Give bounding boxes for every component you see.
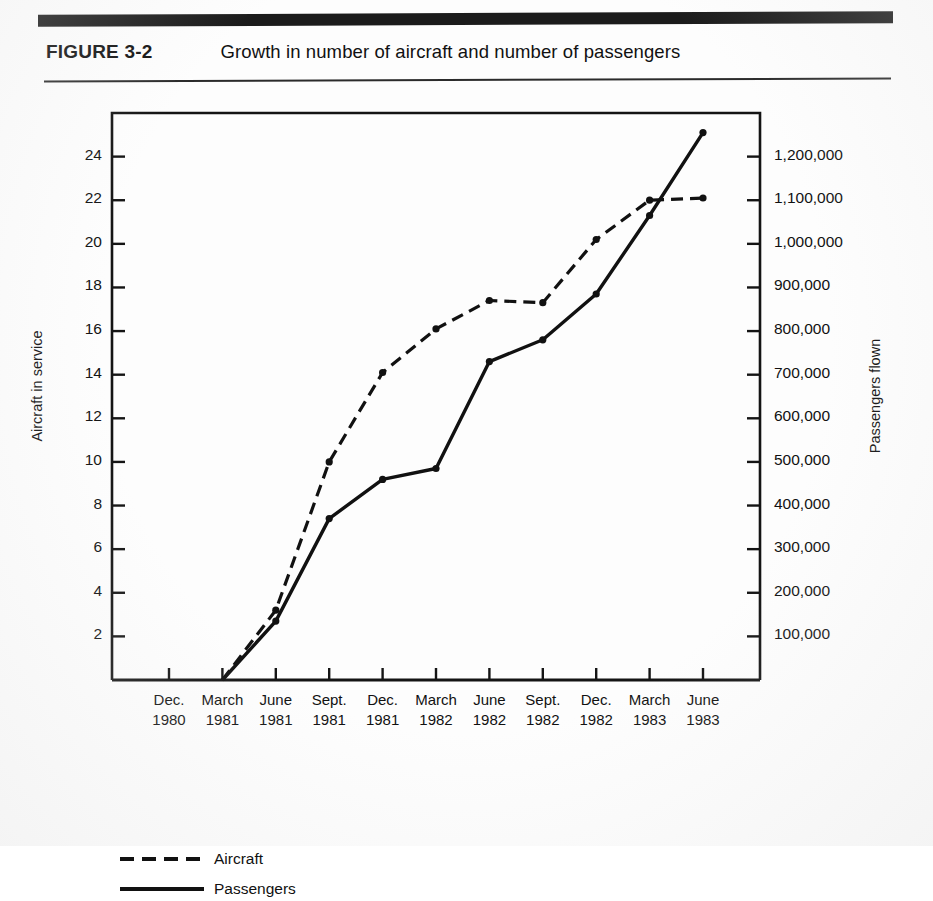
data-point-marker [699,194,706,201]
figure-title: Growth in number of aircraft and number … [221,41,681,63]
left-tick-label: 8 [58,495,102,513]
right-tick-label: 900,000 [774,276,884,294]
data-point-marker [326,515,333,522]
legend-label-passengers: Passengers [214,880,296,898]
right-tick-label: 300,000 [774,538,884,556]
data-point-marker [539,336,546,343]
data-point-marker [379,369,386,376]
header-divider-rule [44,78,891,83]
left-tick-label: 16 [58,320,102,338]
right-tick-label: 400,000 [774,495,884,513]
legend-label-aircraft: Aircraft [214,850,263,868]
left-tick-label: 2 [58,625,102,643]
data-point-marker [486,358,493,365]
right-tick-label: 600,000 [774,407,884,425]
legend-solid-line-icon [120,882,204,896]
x-axis-ticks [169,668,703,680]
data-point-marker [699,129,706,136]
x-tick-label: June1983 [672,690,734,730]
data-point-marker [432,325,439,332]
left-tick-label: 6 [58,538,102,556]
data-point-marker [432,465,439,472]
left-tick-label: 10 [58,451,102,469]
right-tick-label: 800,000 [774,320,884,338]
left-tick-label: 20 [58,233,102,251]
right-tick-label: 700,000 [774,364,884,382]
x-tick-year: 1983 [672,710,734,730]
left-tick-label: 22 [58,189,102,207]
data-point-marker [593,290,600,297]
left-tick-label: 14 [58,364,102,382]
figure-header: FIGURE 3-2 Growth in number of aircraft … [46,41,896,71]
header-black-bar [38,11,893,27]
right-tick-label: 100,000 [774,625,884,643]
data-point-marker [646,212,653,219]
chart-container: Aircraft in service Passengers flown 246… [0,96,933,736]
chart-legend: Aircraft Passengers [120,844,450,901]
data-point-marker [486,297,493,304]
legend-item-aircraft: Aircraft [120,844,450,874]
left-tick-label: 4 [58,582,102,600]
data-point-marker [379,476,386,483]
data-point-marker [539,299,546,306]
data-point-marker [272,618,279,625]
figure-number-label: FIGURE 3-2 [46,41,153,63]
right-tick-label: 500,000 [774,451,884,469]
left-tick-label: 24 [58,146,102,164]
left-axis-ticks [112,157,125,637]
legend-item-passengers: Passengers [120,874,450,901]
x-tick-month: June [672,690,734,710]
right-axis-ticks [747,157,760,637]
series-line-aircraft [222,198,703,680]
legend-dashed-line-icon [120,852,204,866]
data-point-marker [646,197,653,204]
left-tick-label: 18 [58,276,102,294]
left-axis-title: Aircraft in service [29,306,45,466]
data-point-marker [326,458,333,465]
data-point-marker [593,236,600,243]
right-tick-label: 1,100,000 [774,189,884,207]
right-tick-label: 1,000,000 [774,233,884,251]
right-tick-label: 1,200,000 [774,146,884,164]
right-tick-label: 200,000 [774,582,884,600]
data-series-group [222,129,706,680]
left-tick-label: 12 [58,407,102,425]
